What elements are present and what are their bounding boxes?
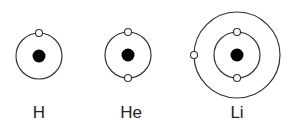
electron [191,52,198,59]
electron [234,75,241,82]
atom-hydrogen [16,30,62,80]
label-lithium: Li [230,103,243,123]
nucleus [231,49,244,62]
label-hydrogen: H [33,103,45,123]
electron [125,75,132,82]
electron [125,29,132,36]
nucleus [33,50,46,63]
electron [36,30,43,37]
nucleus [122,49,135,62]
atom-lithium [191,12,281,98]
electron [234,29,241,36]
label-helium: He [120,103,142,123]
atom-helium [105,29,151,82]
